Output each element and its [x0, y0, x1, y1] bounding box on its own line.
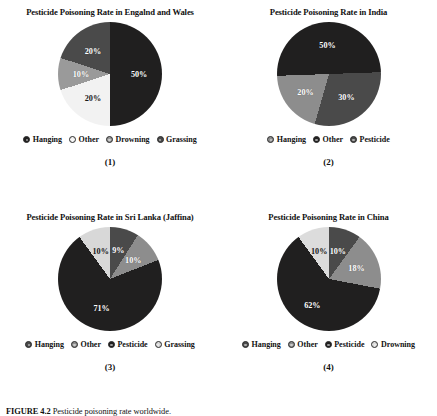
legend-label: Grassing — [166, 135, 197, 144]
legend-item-grassing[interactable]: Grassing — [155, 340, 195, 349]
chart-panel-4: Pesticide Poisoning Rate in China 10% 18… — [220, 205, 437, 401]
slice-label-pesticide: 62% — [304, 300, 320, 309]
legend-swatch-icon — [242, 341, 249, 348]
legend-item-drowning[interactable]: Drowning — [106, 135, 150, 144]
legend-swatch-icon — [313, 136, 320, 143]
legend-swatch-icon — [155, 341, 162, 348]
figure-panel-grid: Pesticide Poisoning Rate in Engalnd and … — [0, 0, 437, 416]
legend-swatch-icon — [350, 136, 357, 143]
slice-label-hanging: 20% — [297, 88, 313, 97]
legend-swatch-icon — [108, 341, 115, 348]
chart-legend-2: HangingOtherPesticide — [267, 135, 390, 144]
slice-label-drowning: 10% — [73, 70, 89, 79]
legend-item-pesticide[interactable]: Pesticide — [108, 340, 148, 349]
legend-item-other[interactable]: Other — [313, 135, 343, 144]
slice-label-pesticide: 71% — [93, 304, 109, 313]
pie-graphic-4 — [277, 227, 381, 331]
legend-item-grassing[interactable]: Grassing — [157, 135, 197, 144]
chart-panel-2: Pesticide Poisoning Rate in India 20% 50… — [220, 0, 437, 205]
legend-label: Drowning — [381, 340, 415, 349]
slice-label-other: 20% — [85, 94, 101, 103]
chart-panel-3: Pesticide Poisoning Rate in Sri Lanka (J… — [0, 205, 220, 401]
legend-label: Other — [79, 135, 99, 144]
chart-panel-1: Pesticide Poisoning Rate in Engalnd and … — [0, 0, 220, 205]
legend-swatch-icon — [71, 341, 78, 348]
pie-graphic-3 — [58, 227, 162, 331]
pie-chart-1: 50% 20% 10% 20% — [58, 22, 162, 126]
figure-caption-label: FIGURE 4.2 — [6, 407, 51, 416]
legend-swatch-icon — [267, 136, 274, 143]
legend-swatch-icon — [25, 341, 32, 348]
legend-item-hanging[interactable]: Hanging — [25, 340, 64, 349]
pie-chart-4: 10% 18% 62% 10% — [277, 227, 381, 331]
legend-label: Pesticide — [360, 135, 390, 144]
slice-label-hanging: 50% — [131, 70, 147, 79]
panel-number-2: (2) — [323, 157, 334, 167]
slice-label-other: 10% — [125, 256, 141, 265]
legend-label: Pesticide — [334, 340, 364, 349]
slice-label-other: 50% — [319, 41, 335, 50]
legend-swatch-icon — [69, 136, 76, 143]
pie-chart-3: 9% 10% 71% 10% — [58, 227, 162, 331]
legend-swatch-icon — [371, 341, 378, 348]
legend-label: Pesticide — [117, 340, 147, 349]
legend-item-hanging[interactable]: Hanging — [267, 135, 306, 144]
legend-label: Other — [323, 135, 343, 144]
legend-item-pesticide[interactable]: Pesticide — [325, 340, 365, 349]
chart-title-4: Pesticide Poisoning Rate in China — [268, 213, 388, 222]
legend-label: Hanging — [33, 135, 62, 144]
legend-label: Hanging — [35, 340, 64, 349]
pie-chart-2: 20% 50% 30% — [277, 22, 381, 126]
legend-swatch-icon — [106, 136, 113, 143]
figure-caption: FIGURE 4.2 Pesticide poisoning rate worl… — [6, 407, 431, 416]
slice-label-grassing: 10% — [92, 246, 108, 255]
legend-label: Drowning — [116, 135, 150, 144]
chart-title-2: Pesticide Poisoning Rate in India — [270, 8, 388, 17]
legend-swatch-icon — [288, 341, 295, 348]
slice-label-pesticide: 30% — [338, 93, 354, 102]
legend-label: Other — [297, 340, 317, 349]
panel-number-4: (4) — [323, 362, 334, 372]
slice-label-other: 18% — [348, 264, 364, 273]
chart-legend-3: HangingOtherPesticideGrassing — [25, 340, 195, 349]
legend-item-pesticide[interactable]: Pesticide — [350, 135, 390, 144]
chart-title-1: Pesticide Poisoning Rate in Engalnd and … — [26, 8, 194, 17]
legend-item-other[interactable]: Other — [71, 340, 101, 349]
legend-label: Hanging — [251, 340, 280, 349]
legend-item-drowning[interactable]: Drowning — [371, 340, 415, 349]
slice-label-drowning: 10% — [311, 246, 327, 255]
slice-label-hanging: 9% — [112, 246, 124, 255]
legend-swatch-icon — [325, 341, 332, 348]
legend-item-other[interactable]: Other — [288, 340, 318, 349]
legend-label: Grassing — [164, 340, 195, 349]
figure-caption-text: Pesticide poisoning rate worldwide. — [53, 407, 171, 416]
panel-number-1: (1) — [105, 157, 116, 167]
slice-label-grassing: 20% — [85, 46, 101, 55]
chart-legend-4: HangingOtherPesticideDrowning — [242, 340, 415, 349]
legend-label: Other — [81, 340, 101, 349]
panel-number-3: (3) — [105, 362, 116, 372]
legend-label: Hanging — [277, 135, 306, 144]
legend-item-hanging[interactable]: Hanging — [23, 135, 62, 144]
slice-label-hanging: 10% — [330, 246, 346, 255]
pie-graphic-2 — [277, 22, 381, 126]
legend-swatch-icon — [157, 136, 164, 143]
legend-item-hanging[interactable]: Hanging — [242, 340, 281, 349]
chart-title-3: Pesticide Poisoning Rate in Sri Lanka (J… — [26, 213, 193, 222]
legend-swatch-icon — [23, 136, 30, 143]
chart-legend-1: HangingOtherDrowningGrassing — [23, 135, 197, 144]
legend-item-other[interactable]: Other — [69, 135, 99, 144]
